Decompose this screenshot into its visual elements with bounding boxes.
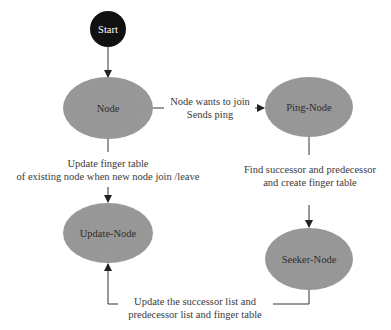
edge-label-line: and create finger table	[240, 176, 380, 189]
start-node-label: Start	[98, 24, 118, 35]
seeker-node-label: Seeker-Node	[282, 254, 337, 265]
edge-label-line: predecessor list and finger table	[120, 308, 270, 321]
edge-label-line: Node wants to join	[165, 95, 255, 108]
edge-label-line: Find successor and predecessor	[240, 163, 380, 176]
ping-node-label: Ping-Node	[286, 102, 332, 113]
edge-seeker-to-update-left	[108, 264, 118, 304]
edge-label-line: Update finger table	[8, 157, 208, 170]
edge-label-node-to-ping: Node wants to join Sends ping	[165, 95, 255, 121]
node-label: Node	[97, 103, 120, 114]
edge-label-line: of existing node when new node join /lea…	[8, 170, 208, 183]
edge-label-line: Sends ping	[165, 108, 255, 121]
edge-label-ping-to-seeker: Find successor and predecessor and creat…	[240, 163, 380, 189]
edge-label-node-to-update: Update finger table of existing node whe…	[8, 157, 208, 183]
edge-label-seeker-to-update: Update the successor list and predecesso…	[120, 295, 270, 321]
edge-label-line: Update the successor list and	[120, 295, 270, 308]
update-node-label: Update-Node	[80, 228, 137, 239]
edge-seeker-to-update-right	[273, 290, 309, 304]
